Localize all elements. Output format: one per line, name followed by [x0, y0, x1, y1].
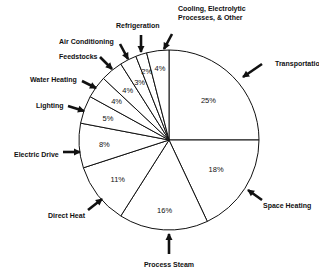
slice-value-label: 16% [157, 206, 172, 215]
slice-value-label: 4% [122, 86, 133, 95]
slice-value-label: 8% [99, 140, 110, 149]
slice-value-label: 4% [155, 64, 166, 73]
slice-value-label: 5% [103, 114, 114, 123]
slice-value-label: 25% [201, 96, 216, 105]
slice-category-label: Process Steam [144, 261, 194, 268]
slice-value-label: 11% [111, 175, 126, 184]
slice-value-label: 3% [134, 78, 145, 87]
slice-category-label: Feedstocks [59, 53, 98, 60]
slice-value-label: 4% [111, 97, 122, 106]
slice-category-label: Lighting [36, 102, 64, 110]
slice-category-label: Cooling, ElectrolyticProcesses, & Other [178, 5, 246, 22]
arrow-head-icon [166, 233, 173, 240]
pie-chart: 25%18%16%11%8%5%4%4%3%2%4% Transportatio… [0, 0, 319, 275]
slice-category-label: Electric Drive [14, 151, 59, 158]
pie-slice-transportation [169, 50, 259, 140]
slice-category-label: Water Heating [30, 76, 77, 84]
arrow-head-icon [138, 46, 145, 53]
slice-value-label: 18% [209, 165, 224, 174]
slice-category-label: Space Heating [263, 202, 311, 210]
slice-value-label: 2% [141, 67, 152, 76]
slice-category-label: Transportation [275, 60, 319, 68]
slice-category-label: Refrigeration [116, 22, 160, 30]
slice-category-label: Direct Heat [48, 212, 86, 219]
slice-category-label: Air Conditioning [59, 38, 114, 46]
